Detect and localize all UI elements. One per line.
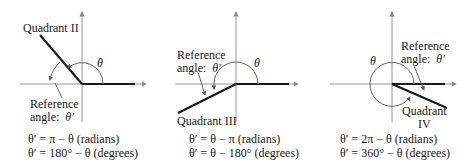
quadrant-label: Quadrant III [177, 115, 237, 128]
reference-pointer [55, 83, 62, 98]
reference-label: Reference angle: θ′ [401, 40, 450, 66]
formulas: θ′ = π − θ (radians) θ′ = 180° − θ (degr… [28, 133, 138, 160]
terminal-side [178, 84, 236, 113]
formula-radians: θ′ = π − θ (radians) [28, 133, 138, 147]
formula-radians: θ′ = 2π − θ (radians) [340, 133, 450, 147]
quadrant-label: Quadrant IV [402, 105, 447, 131]
theta-label: θ [254, 57, 260, 70]
formulas: θ′ = θ − π (radians) θ′ = θ − 180° (degr… [189, 133, 299, 160]
reference-label: Reference angle: θ′ [177, 49, 226, 75]
theta-label: θ [370, 55, 376, 68]
quadrant-label: Quadrant II [23, 22, 79, 35]
formula-radians: θ′ = θ − π (radians) [189, 133, 299, 147]
reference-arc [50, 62, 60, 80]
reference-label: Reference angle: θ′ [30, 98, 79, 124]
terminal-side [40, 35, 82, 84]
panel-quadrant-iii: θ Reference angle: θ′ Quadrant III θ′ = … [155, 0, 315, 162]
formula-degrees: θ′ = 360° − θ (degrees) [340, 147, 450, 161]
formulas: θ′ = 2π − θ (radians) θ′ = 360° − θ (deg… [340, 133, 450, 160]
panel-quadrant-ii: Quadrant II θ Reference angle: θ′ θ′ = π… [0, 0, 160, 162]
theta-label: θ [97, 57, 103, 70]
formula-degrees: θ′ = θ − 180° (degrees) [189, 147, 299, 161]
reference-pointer [414, 66, 424, 90]
formula-degrees: θ′ = 180° − θ (degrees) [28, 147, 138, 161]
panel-quadrant-iv: θ Reference angle: θ′ Quadrant IV θ′ = 2… [310, 0, 470, 162]
reference-pointer [198, 72, 205, 95]
